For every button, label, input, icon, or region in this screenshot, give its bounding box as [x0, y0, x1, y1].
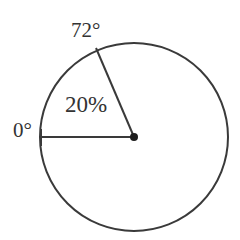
center-dot: [130, 133, 138, 141]
circle-sector-figure: 0° 72° 20%: [0, 0, 240, 240]
sector-percent-label: 20%: [65, 93, 107, 116]
circle-diagram-canvas: [0, 0, 240, 240]
start-angle-label: 0°: [13, 120, 32, 141]
end-angle-label: 72°: [71, 20, 100, 41]
